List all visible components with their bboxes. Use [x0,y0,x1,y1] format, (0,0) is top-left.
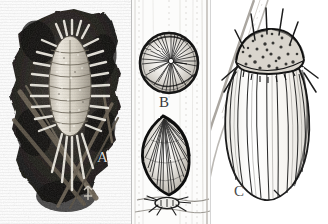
panel-b [131,0,210,224]
figure-label-b: B [159,95,169,110]
figure-label-c: C [234,184,244,199]
panel-c-illustration [210,0,328,224]
panel-a [0,0,131,224]
panel-divider-ab [131,0,132,224]
figure-plate: A B C [0,0,328,224]
panel-divider-bc [210,0,211,224]
panel-a-illustration [0,0,131,224]
figure-label-a: A [97,150,108,165]
panel-b-illustration [131,0,210,224]
round-scale-cover [140,33,198,93]
panel-c [210,0,328,224]
